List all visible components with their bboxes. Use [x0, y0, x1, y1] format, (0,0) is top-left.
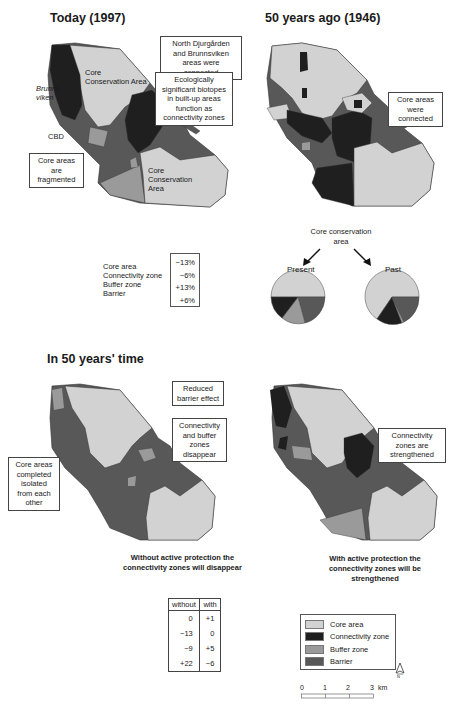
panel-title-today: Today (1997): [50, 11, 126, 25]
legend-label: Buffer zone: [330, 645, 368, 654]
cell-without: +22: [169, 656, 200, 672]
cell-without: 0: [169, 611, 200, 627]
legend-item-barrier: Barrier: [305, 656, 391, 669]
buffer-zone-swatch-icon: [305, 645, 324, 654]
scale-bar-line: [301, 693, 375, 699]
callout-ecologically-significant-biotopes: Ecologically significant biotopes in bui…: [155, 72, 233, 126]
change-value-core: −13%: [175, 257, 195, 270]
legend-label: Core area: [330, 620, 363, 629]
label-core-conservation-area-bottom: Core Conservation Area: [148, 166, 208, 193]
scale-tick-0: 0: [300, 684, 304, 691]
scale-unit: km: [378, 684, 387, 691]
change-value-connectivity: −6%: [175, 270, 195, 283]
scale-tick-2: 2: [346, 684, 350, 691]
pie-past-label: Past: [385, 265, 401, 274]
table-row: 0 +1: [169, 611, 221, 627]
callout-reduced-barrier-effect: Reduced barrier effect: [172, 381, 224, 406]
change-value-barrier: +6%: [175, 295, 195, 308]
change-category-barrier: Barrier: [103, 289, 162, 298]
barrier-swatch-icon: [305, 657, 324, 666]
col-header-with: with: [199, 599, 221, 611]
pie-past: [365, 270, 419, 325]
change-category-buffer: Buffer zone: [103, 280, 162, 289]
cell-with: 0: [199, 626, 221, 641]
pie-present: [271, 270, 325, 324]
legend-item-core-area: Core area: [305, 618, 391, 631]
callout-connectivity-buffer-disappear: Connectivity and buffer zones disappear: [172, 418, 227, 462]
scale-tick-3: 3: [370, 684, 374, 691]
cell-without: −13: [169, 626, 200, 641]
cell-without: −9: [169, 641, 200, 656]
label-core-conservation-area-top: Core Conservation Area: [85, 68, 147, 86]
change-categories: Core area Connectivity zone Buffer zone …: [103, 262, 162, 298]
pie-present-label: Present: [287, 265, 315, 274]
label-brunnsviken: Brunns-viken: [36, 84, 60, 102]
label-cbd: CBD: [48, 132, 64, 141]
col-header-without: without: [169, 599, 200, 611]
connectivity-zone-swatch-icon: [305, 632, 324, 641]
caption-with-protection: With active protection the connectivity …: [325, 554, 425, 584]
cell-with: +1: [199, 611, 221, 627]
north-arrow-icon: [394, 662, 406, 678]
legend-item-connectivity-zone: Connectivity zone: [305, 631, 391, 644]
pie-charts: [270, 243, 440, 333]
north-label: N: [397, 674, 400, 679]
change-percent-box: −13% −6% +13% +6%: [170, 253, 200, 307]
table-row: −13 0: [169, 626, 221, 641]
table-row: −9 +5: [169, 641, 221, 656]
callout-core-areas-fragmented: Core areas are fragmented: [29, 153, 84, 188]
map-legend: Core area Connectivity zone Buffer zone …: [300, 614, 396, 670]
scale-bar: 0 1 2 3 km: [300, 684, 400, 704]
callout-core-areas-were-connected: Core areas were connected: [388, 92, 443, 127]
cell-with: +5: [199, 641, 221, 656]
change-category-core: Core area: [103, 262, 162, 271]
panel-title-past: 50 years ago (1946): [265, 11, 380, 25]
legend-item-buffer-zone: Buffer zone: [305, 643, 391, 656]
comparison-table: without with 0 +1 −13 0 −9 +5 +22 −6: [168, 598, 221, 672]
caption-without-protection: Without active protection the connectivi…: [115, 553, 250, 573]
core-area-swatch-icon: [305, 620, 324, 629]
legend-label: Connectivity zone: [330, 632, 389, 641]
callout-connectivity-strengthened: Connectivity zones are strengthened: [378, 428, 446, 463]
change-value-buffer: +13%: [175, 282, 195, 295]
change-category-connectivity: Connectivity zone: [103, 271, 162, 280]
scale-tick-1: 1: [323, 684, 327, 691]
legend-label: Barrier: [330, 657, 353, 666]
panel-title-future: In 50 years' time: [47, 352, 144, 366]
cell-with: −6: [199, 656, 221, 672]
table-row: +22 −6: [169, 656, 221, 672]
callout-core-areas-isolated: Core areas completed isolated from each …: [8, 457, 60, 511]
